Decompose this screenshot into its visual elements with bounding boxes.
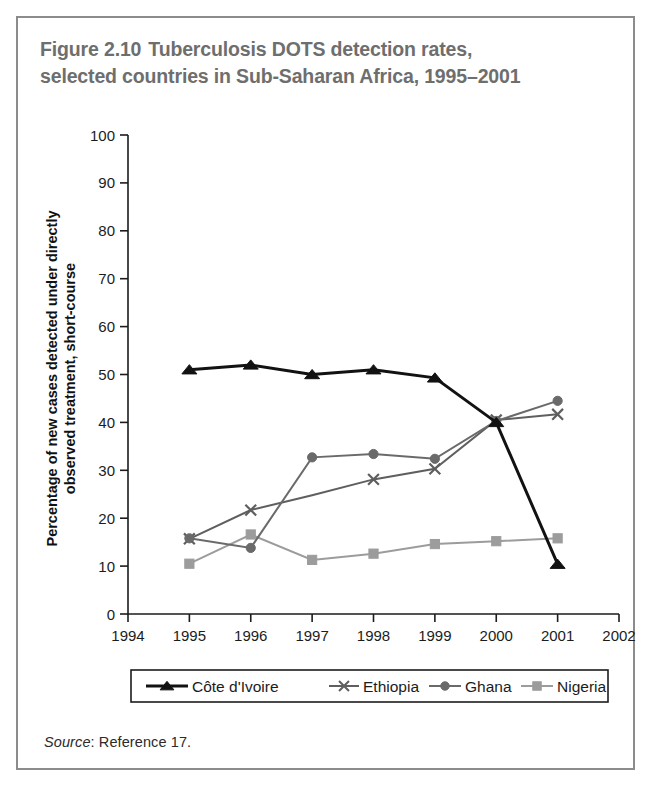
y-axis-tick-label: 90: [98, 174, 115, 191]
x-axis-tick-label: 2000: [480, 627, 513, 644]
marker-circle: [185, 534, 194, 543]
series-line: [189, 365, 557, 564]
chart-legend: Côte d'IvoireEthiopiaGhanaNigeria: [131, 670, 608, 702]
marker-square: [185, 559, 194, 568]
data-series: [184, 409, 563, 544]
marker-square: [308, 555, 317, 564]
marker-square: [369, 549, 378, 558]
legend-item: Ghana: [429, 678, 512, 695]
y-axis-tick-label: 20: [98, 510, 115, 527]
marker-circle: [369, 449, 378, 458]
axis-titles-layer: Percentage of new cases detected under d…: [44, 210, 78, 546]
legend-item: Nigeria: [521, 678, 606, 695]
chart-plot-area: 0102030405060708090100199419951996199719…: [18, 18, 637, 772]
marker-square: [553, 534, 562, 543]
data-series-layer: [182, 360, 565, 569]
x-axis-tick-label: 1997: [295, 627, 328, 644]
marker-square: [430, 539, 439, 548]
marker-circle: [308, 453, 317, 462]
y-axis-tick-label: 70: [98, 270, 115, 287]
x-axis-tick-label: 1998: [357, 627, 390, 644]
y-axis-tick-label: 60: [98, 318, 115, 335]
x-axis-tick-label: 1995: [173, 627, 206, 644]
legend-item: Côte d'Ivoire: [146, 678, 279, 695]
legend-label: Ghana: [465, 678, 512, 695]
data-series: [182, 360, 565, 569]
x-axis-tick-label: 1996: [234, 627, 267, 644]
y-axis-tick-label: 80: [98, 222, 115, 239]
legend-label: Côte d'Ivoire: [192, 678, 279, 695]
source-label: Source: [44, 734, 91, 750]
marker-square: [246, 530, 255, 539]
figure-frame: Figure 2.10Tuberculosis DOTS detection r…: [16, 16, 635, 770]
y-axis-tick-label: 40: [98, 414, 115, 431]
data-series: [185, 530, 562, 568]
marker-triangle: [550, 559, 565, 568]
legend-label: Nigeria: [557, 678, 606, 695]
legend-item: Ethiopia: [329, 678, 419, 695]
y-axis-tick-label: 10: [98, 558, 115, 575]
marker-square: [492, 537, 501, 546]
source-note: Source: Reference 17.: [44, 734, 191, 750]
y-axis-tick-label: 50: [98, 366, 115, 383]
marker-circle: [430, 454, 439, 463]
x-axis-tick-label: 2002: [602, 627, 635, 644]
y-axis-tick-label: 100: [90, 127, 115, 144]
marker-square: [533, 682, 541, 690]
x-axis-tick-label: 2001: [541, 627, 574, 644]
y-axis-tick-label: 0: [107, 606, 115, 623]
source-text: : Reference 17.: [91, 734, 192, 750]
x-axis-tick-label: 1994: [111, 627, 144, 644]
y-axis-title: observed treatment, short-course: [62, 263, 78, 494]
y-axis-title: Percentage of new cases detected under d…: [44, 210, 60, 546]
marker-circle: [246, 543, 255, 552]
line-chart: 0102030405060708090100199419951996199719…: [18, 18, 637, 772]
x-axis-tick-label: 1999: [418, 627, 451, 644]
marker-circle: [441, 682, 449, 690]
series-line: [189, 401, 557, 548]
legend-label: Ethiopia: [363, 678, 419, 695]
marker-circle: [553, 396, 562, 405]
y-axis-tick-label: 30: [98, 462, 115, 479]
